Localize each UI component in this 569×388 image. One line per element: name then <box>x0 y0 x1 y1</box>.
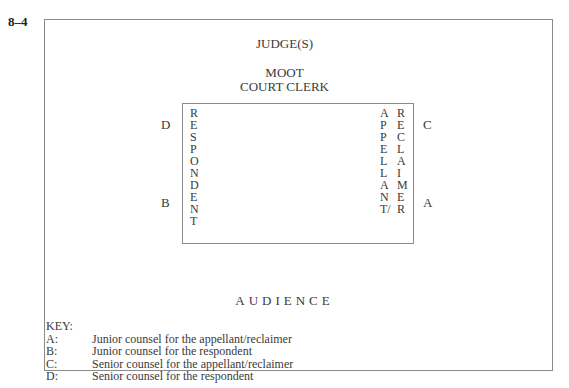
key-text: Junior counsel for the respondent <box>92 345 252 358</box>
position-c: C <box>423 117 432 133</box>
appellant-column: A P P E L L A N T/ <box>380 107 391 215</box>
letter: R <box>397 203 408 215</box>
key-title: KEY: <box>46 320 293 333</box>
clerk-line-2: COURT CLERK <box>0 80 569 94</box>
key-legend: KEY: A: Junior counsel for the appellant… <box>46 320 293 383</box>
reclaimer-column: R E C L A I M E R <box>397 107 408 215</box>
key-item: D: Senior counsel for the respondent <box>46 370 293 383</box>
figure-number: 8–4 <box>8 14 28 30</box>
key-item: B: Junior counsel for the respondent <box>46 345 293 358</box>
judge-label: JUDGE(S) <box>0 36 569 52</box>
respondent-column: R E S P O N D E N T <box>190 107 199 227</box>
clerk-label: MOOT COURT CLERK <box>0 66 569 94</box>
letter: T/ <box>380 203 391 215</box>
position-b: B <box>161 195 170 211</box>
key-letter: B: <box>46 345 92 358</box>
clerk-line-1: MOOT <box>0 66 569 80</box>
letter: T <box>190 215 199 227</box>
key-letter: D: <box>46 370 92 383</box>
key-text: Senior counsel for the respondent <box>92 370 253 383</box>
position-d: D <box>161 117 170 133</box>
position-a: A <box>423 195 432 211</box>
audience-label: AUDIENCE <box>0 293 569 309</box>
